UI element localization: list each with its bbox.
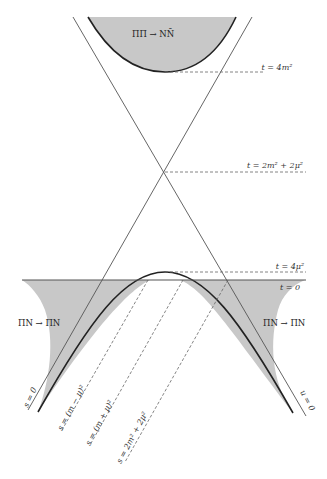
right-region-fill: [180, 280, 305, 413]
left-region-label: ΠN → ΠN: [18, 318, 61, 328]
s-0-label: s = 0: [22, 386, 39, 409]
t-4mu2-label: t = 4μ²: [276, 262, 305, 271]
s-2m2-2mu2-line: [125, 280, 228, 462]
t-4m2-label: t = 4m²: [262, 63, 293, 72]
s-m-minus-mu-label: s = (m − μ)²: [56, 384, 87, 432]
right-region-label: ΠN → ΠN: [263, 318, 306, 328]
upper-region-fill: [88, 17, 236, 72]
s0-line: [28, 17, 252, 410]
mandelstam-diagram: ΠΠ → NN̄ ΠN → ΠN ΠN → ΠN t = 4m² t = 2m²…: [0, 0, 327, 479]
u-0-label: u = 0: [298, 389, 316, 413]
left-region-fill: [22, 280, 150, 412]
t-2m2-2mu2-label: t = 2m² + 2μ²: [247, 161, 303, 170]
u0-line: [73, 17, 306, 416]
t-0-label: t = 0: [280, 283, 300, 292]
s-m-plus-mu-label: s = (m + μ)²: [84, 399, 115, 447]
upper-region-label: ΠΠ → NN̄: [132, 28, 175, 39]
s-2m2-2mu2-label: s = 2m² + 2μ²: [115, 410, 150, 465]
